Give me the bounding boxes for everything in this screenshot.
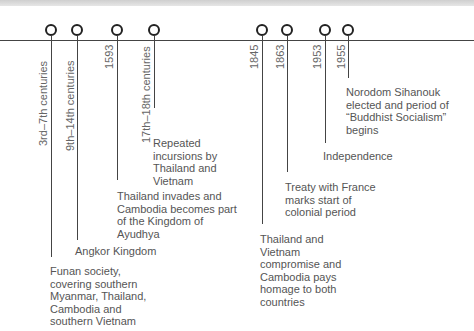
event-stem — [262, 36, 263, 224]
event-date: 1863 — [274, 45, 286, 69]
event-stem — [325, 36, 326, 143]
event-stem — [154, 36, 155, 108]
event-marker-icon — [319, 24, 331, 36]
event-stem — [77, 36, 78, 240]
event-date: 1845 — [248, 45, 260, 69]
event-date: 1955 — [335, 45, 347, 69]
event-date: 17th–18th centuries — [140, 46, 152, 143]
event-marker-icon — [45, 24, 57, 36]
event-date: 3rd–7th centuries — [37, 61, 49, 146]
event-description: Thailand invades and Cambodia becomes pa… — [117, 190, 247, 240]
event-marker-icon — [342, 24, 354, 36]
event-description: Thailand and Vietnam compromise and Camb… — [260, 233, 360, 308]
event-description: Norodom Sihanouk elected and period of “… — [346, 86, 456, 136]
event-stem — [348, 36, 349, 78]
event-marker-icon — [111, 24, 123, 36]
event-date: 1593 — [103, 45, 115, 69]
event-stem — [117, 36, 118, 180]
top-band — [0, 0, 474, 6]
event-description: Angkor Kingdom — [75, 245, 195, 258]
event-description: Repeated incursions by Thailand and Viet… — [153, 137, 233, 187]
timeline-axis — [0, 40, 474, 41]
event-marker-icon — [71, 24, 83, 36]
event-date: 1953 — [311, 45, 323, 69]
event-marker-icon — [281, 24, 293, 36]
event-description: Treaty with France marks start of coloni… — [285, 181, 390, 219]
event-description: Funan society, covering southern Myanmar… — [50, 265, 165, 328]
event-description: Independence — [323, 150, 423, 163]
event-date: 9th–14th centuries — [64, 60, 76, 151]
event-stem — [51, 36, 52, 257]
event-marker-icon — [256, 24, 268, 36]
event-stem — [287, 36, 288, 172]
event-marker-icon — [148, 24, 160, 36]
